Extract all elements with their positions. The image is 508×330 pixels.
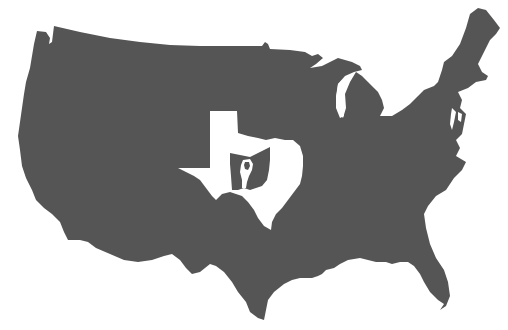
map-canvas: Nested state silhouettes xyxy=(0,0,508,330)
nested-states-map xyxy=(0,0,508,330)
